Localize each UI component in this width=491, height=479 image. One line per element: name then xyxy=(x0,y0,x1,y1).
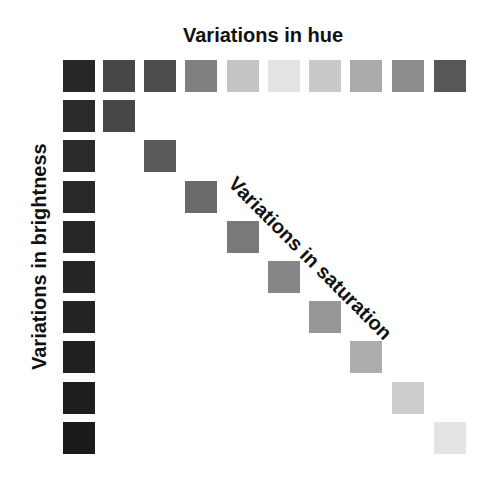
saturation-swatch xyxy=(434,422,466,454)
brightness-swatch xyxy=(63,181,95,213)
brightness-swatch xyxy=(63,221,95,253)
hue-swatch xyxy=(392,60,424,92)
hue-swatch xyxy=(144,60,176,92)
brightness-swatch xyxy=(63,382,95,414)
brightness-swatch xyxy=(63,341,95,373)
saturation-swatch xyxy=(350,341,382,373)
saturation-swatch xyxy=(185,181,217,213)
brightness-swatch xyxy=(63,140,95,172)
hue-swatch xyxy=(185,60,217,92)
hue-swatch xyxy=(63,60,95,92)
brightness-swatch xyxy=(63,301,95,333)
hue-label: Variations in hue xyxy=(183,24,343,47)
brightness-label: Variations in brightness xyxy=(28,143,51,370)
saturation-swatch xyxy=(103,100,135,132)
hue-swatch xyxy=(227,60,259,92)
hue-swatch xyxy=(268,60,300,92)
saturation-swatch xyxy=(144,140,176,172)
hue-swatch xyxy=(103,60,135,92)
hue-swatch xyxy=(434,60,466,92)
brightness-swatch xyxy=(63,261,95,293)
saturation-swatch xyxy=(392,382,424,414)
saturation-swatch xyxy=(227,221,259,253)
saturation-swatch xyxy=(268,261,300,293)
hue-swatch xyxy=(350,60,382,92)
brightness-swatch xyxy=(63,100,95,132)
brightness-swatch xyxy=(63,422,95,454)
saturation-swatch xyxy=(309,301,341,333)
hue-swatch xyxy=(309,60,341,92)
